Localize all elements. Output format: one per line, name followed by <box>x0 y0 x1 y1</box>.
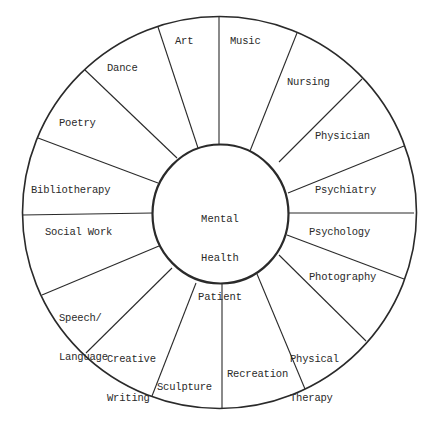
segment-label-nursing: Nursing <box>287 76 330 89</box>
center-label: Mental Health Patient <box>170 187 270 317</box>
center-label-line-3: Patient <box>170 291 270 304</box>
segment-label-social-work: Social Work <box>45 226 112 239</box>
segment-label-photography: Photography <box>309 271 376 284</box>
segment-label-physician: Physician <box>315 130 370 143</box>
segment-label-speech-language: Speech/ Language <box>59 286 108 377</box>
segment-label-sculpture: Sculpture <box>157 381 212 394</box>
segment-label-music: Music <box>230 35 261 48</box>
segment-label-poetry: Poetry <box>59 117 96 130</box>
center-label-line-2: Health <box>170 252 270 265</box>
spoke-poetry-dance <box>85 70 177 158</box>
segment-label-dance: Dance <box>107 62 138 75</box>
segment-label-creative-writing-line-2: Writing <box>107 392 156 405</box>
segment-label-creative-writing: Creative Writing <box>107 327 156 418</box>
segment-label-recreation: Recreation <box>227 368 288 381</box>
spoke-socialwork-bibliotherapy <box>22 213 153 215</box>
segment-label-physical-therapy-line-1: Physical <box>290 353 339 366</box>
spoke-music-nursing <box>250 33 297 151</box>
segment-label-art: Art <box>175 35 193 48</box>
segment-label-bibliotherapy: Bibliotherapy <box>31 184 110 197</box>
segment-label-speech-language-line-2: Language <box>59 351 108 364</box>
segment-label-psychiatry: Psychiatry <box>315 184 376 197</box>
segment-label-physical-therapy: Physical Therapy <box>290 327 339 418</box>
spoke-nursing-physician <box>279 79 362 162</box>
center-label-line-1: Mental <box>170 213 270 226</box>
segment-label-physical-therapy-line-2: Therapy <box>290 392 339 405</box>
segment-label-psychology: Psychology <box>309 226 370 239</box>
spoke-bibliotherapy-poetry <box>38 138 158 183</box>
segment-label-creative-writing-line-1: Creative <box>107 353 156 366</box>
segment-label-speech-language-line-1: Speech/ <box>59 312 108 325</box>
